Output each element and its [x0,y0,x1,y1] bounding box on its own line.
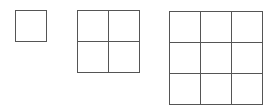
grid-cell [201,12,232,43]
grid-cell [201,43,232,74]
grid-3x3 [169,11,263,105]
grid-cell [170,74,201,105]
grid-cell [170,43,201,74]
grid-cell [78,42,109,73]
grid-cell [78,11,109,42]
grid-cell [109,11,140,42]
grid-cell [232,12,263,43]
grid-cell [16,11,47,42]
grid-cell [232,74,263,105]
grid-cell [201,74,232,105]
grid-cell [109,42,140,73]
grid-1x1 [15,10,47,42]
grid-cell [232,43,263,74]
grid-2x2 [77,10,140,73]
grid-cell [170,12,201,43]
